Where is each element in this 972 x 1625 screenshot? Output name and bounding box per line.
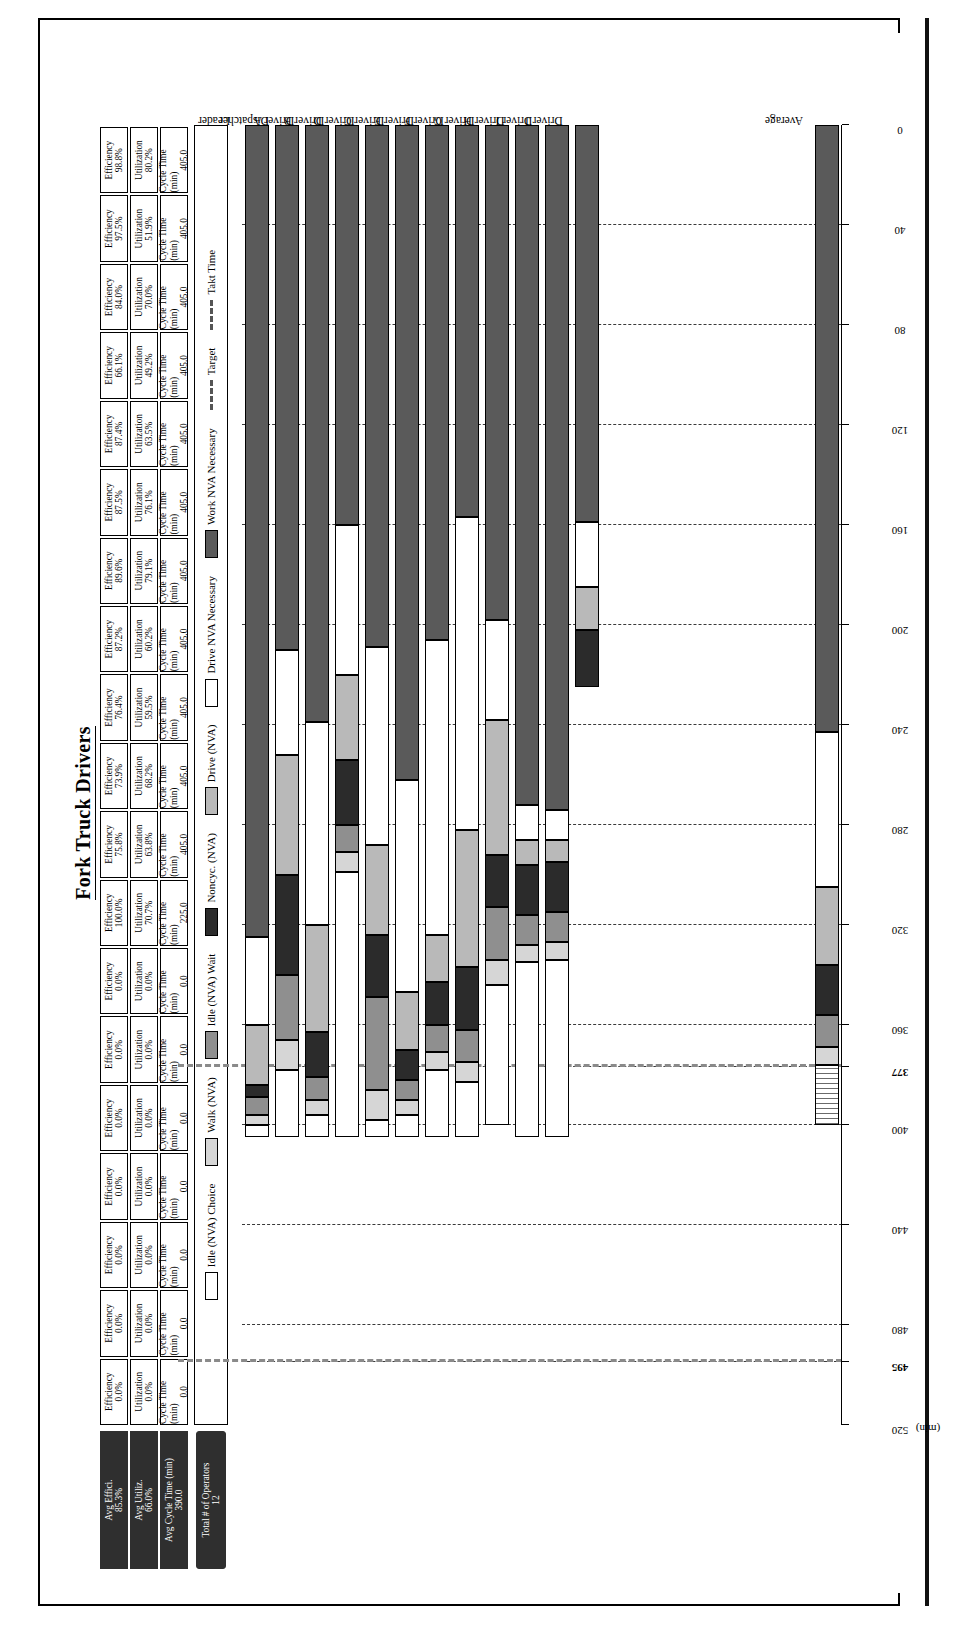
bar-segment[interactable] [275,650,299,755]
bar-segment[interactable] [395,1080,419,1100]
bar-segment[interactable] [485,907,509,960]
bar-segment[interactable] [515,840,539,865]
bar-segment[interactable] [545,912,569,942]
bar-segment[interactable] [485,960,509,985]
bar-segment[interactable] [425,640,449,935]
bar-segment[interactable] [455,517,479,830]
bar-segment[interactable] [515,125,539,805]
bar-segment[interactable] [365,647,389,845]
stacked-bar[interactable] [455,125,479,1138]
bar-segment[interactable] [545,942,569,959]
bar-segment[interactable] [245,1085,269,1098]
stacked-bar[interactable] [275,125,299,1138]
bar-segment[interactable] [245,1124,269,1137]
legend-item[interactable]: Drive (NVA) [205,724,218,815]
bar-segment[interactable] [275,125,299,650]
bar-segment[interactable] [305,925,329,1033]
bar-segment[interactable] [395,125,419,780]
stacked-bar[interactable] [545,125,569,1138]
stacked-bar[interactable] [575,125,599,688]
legend-item[interactable]: Idle (NVA) Choice [205,1183,218,1300]
bar-segment[interactable] [395,1115,419,1137]
bar-segment[interactable] [275,975,299,1040]
bar-segment[interactable] [455,967,479,1030]
bar-segment[interactable] [575,587,599,630]
bar-segment[interactable] [335,872,359,1137]
bar-segment[interactable] [515,805,539,840]
bar-segment[interactable] [245,937,269,1025]
stacked-bar[interactable] [245,125,269,1138]
bar-segment[interactable] [365,845,389,935]
bar-segment[interactable] [365,997,389,1090]
bar-segment[interactable] [425,125,449,640]
stacked-bar[interactable] [305,125,329,1138]
bar-segment[interactable] [515,945,539,962]
bar-segment[interactable] [335,760,359,825]
bar-segment[interactable] [395,780,419,993]
bar-segment[interactable] [575,522,599,587]
bar-segment[interactable] [365,1119,389,1136]
bar-segment[interactable] [335,852,359,872]
bar-segment[interactable] [425,1052,449,1069]
legend-item[interactable]: Target [205,347,217,410]
bar-segment[interactable] [395,1100,419,1115]
bar-segment[interactable] [395,1050,419,1080]
stacked-bar[interactable] [515,125,539,1138]
bar-segment[interactable] [335,125,359,525]
bar-segment[interactable] [485,855,509,908]
stacked-bar[interactable] [815,125,839,1125]
bar-segment[interactable] [815,732,839,887]
bar-segment[interactable] [425,1025,449,1052]
bar-segment[interactable] [455,1062,479,1082]
bar-segment[interactable] [335,825,359,852]
bar-segment[interactable] [515,962,539,1137]
bar-segment[interactable] [455,1082,479,1137]
legend-item[interactable]: Takt Time [205,249,217,329]
bar-segment[interactable] [545,125,569,810]
legend-item[interactable]: Drive NVA Necessary [205,576,218,707]
bar-segment[interactable] [575,630,599,688]
legend-item[interactable]: Noncyc. (NVA) [205,833,218,935]
legend-item[interactable]: Idle (NVA) Wait [205,953,218,1059]
stacked-bar[interactable] [395,125,419,1138]
bar-segment[interactable] [275,875,299,975]
bar-segment[interactable] [425,1069,449,1137]
bar-segment[interactable] [245,125,269,938]
bar-segment[interactable] [575,125,599,523]
bar-segment[interactable] [425,935,449,983]
stacked-bar[interactable] [365,125,389,1138]
bar-segment[interactable] [365,125,389,648]
bar-segment[interactable] [545,862,569,912]
bar-segment[interactable] [305,1099,329,1114]
bar-segment[interactable] [485,620,509,720]
bar-segment[interactable] [455,1030,479,1063]
bar-segment[interactable] [245,1114,269,1124]
bar-segment[interactable] [275,1070,299,1138]
bar-segment[interactable] [455,125,479,518]
legend-item[interactable]: Walk (NVA) [205,1077,218,1165]
legend-item[interactable]: Work NVA Necessary [205,428,218,558]
stacked-bar[interactable] [425,125,449,1138]
bar-segment[interactable] [335,675,359,760]
bar-segment[interactable] [815,1065,839,1125]
bar-segment[interactable] [275,1040,299,1070]
bar-segment[interactable] [815,965,839,1015]
bar-segment[interactable] [305,125,329,723]
bar-segment[interactable] [815,1015,839,1048]
bar-segment[interactable] [485,125,509,620]
bar-segment[interactable] [545,840,569,862]
stacked-bar[interactable] [485,125,509,1125]
stacked-bar[interactable] [335,125,359,1138]
bar-segment[interactable] [485,720,509,855]
bar-segment[interactable] [305,1077,329,1099]
bar-segment[interactable] [305,1114,329,1136]
bar-segment[interactable] [365,1089,389,1119]
bar-segment[interactable] [815,125,839,733]
bar-segment[interactable] [425,982,449,1025]
bar-segment[interactable] [245,1025,269,1085]
bar-segment[interactable] [395,992,419,1050]
bar-segment[interactable] [515,915,539,945]
bar-segment[interactable] [485,985,509,1125]
bar-segment[interactable] [245,1097,269,1114]
bar-segment[interactable] [545,810,569,840]
